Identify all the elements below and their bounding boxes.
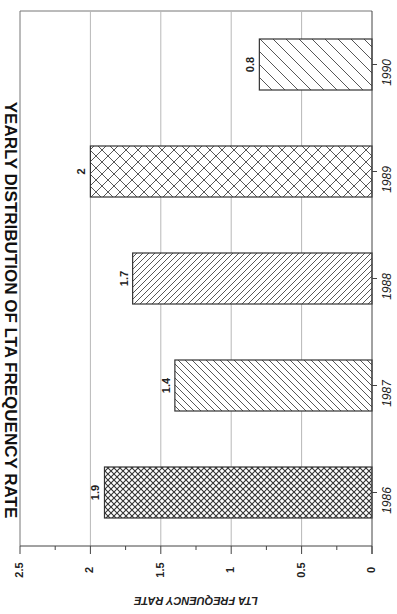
value-axis-title: LTA FREQUENCY RATE <box>134 595 258 607</box>
value-tick-label: 0.5 <box>295 562 307 577</box>
chart-title: YEARLY DISTRIBUTION OF LTA FREQUENCY RAT… <box>1 102 20 519</box>
axis-labels: 1.919861.419871.71988219890.8199000.511.… <box>13 57 394 607</box>
value-tick-label: 2 <box>83 567 95 573</box>
value-label-1988: 1.7 <box>118 271 130 286</box>
value-tick-label: 2.5 <box>13 562 25 577</box>
value-label-1989: 2 <box>75 168 87 174</box>
category-label-1990: 1990 <box>380 59 394 86</box>
value-tick-label: 0 <box>365 567 377 573</box>
bar-1986 <box>104 467 372 518</box>
bar-1988 <box>133 253 372 304</box>
category-label-1986: 1986 <box>380 487 394 514</box>
value-label-1986: 1.9 <box>89 485 101 500</box>
category-label-1987: 1987 <box>380 379 394 407</box>
category-label-1989: 1989 <box>380 166 394 193</box>
bar-1989 <box>90 146 372 197</box>
value-label-1987: 1.4 <box>160 377 172 393</box>
category-label-1988: 1988 <box>380 273 394 300</box>
chart-title-group: YEARLY DISTRIBUTION OF LTA FREQUENCY RAT… <box>1 102 20 519</box>
bar-1987 <box>175 360 372 411</box>
bar-chart: YEARLY DISTRIBUTION OF LTA FREQUENCY RAT… <box>0 0 397 614</box>
value-label-1990: 0.8 <box>244 57 256 72</box>
value-tick-label: 1 <box>224 567 236 573</box>
value-tick-label: 1.5 <box>154 562 166 577</box>
bar-1990 <box>259 39 372 90</box>
